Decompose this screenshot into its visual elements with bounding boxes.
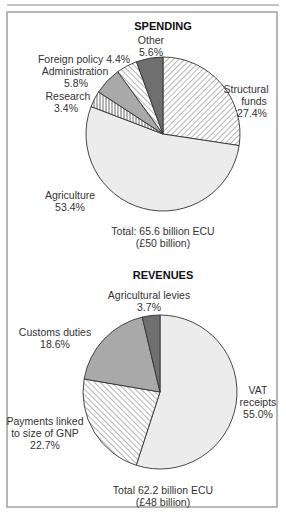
label-foreign-policy: Foreign policy 4.4% [38,53,130,65]
label-structural-funds-value: 27.4% [237,107,267,119]
label-research-1: Research [46,90,91,102]
spending-total-gbp: (£50 billion) [136,237,190,249]
revenues-title: REVENUES [133,269,194,281]
label-other-1: Other [138,34,165,46]
label-agriculture-value: 53.4% [55,201,85,213]
revenues-total-gbp: (£48 billion) [136,496,190,508]
label-structural-funds-2: funds [241,95,267,107]
label-vat-2: receipts [240,396,277,408]
label-gnp-value: 22.7% [30,439,60,451]
label-administration-value: 5.8% [64,77,88,89]
label-other-value: 5.6% [139,46,163,58]
label-agriculture-1: Agriculture [45,189,95,201]
label-agri-levies-value: 3.7% [137,301,161,313]
label-agri-levies-1: Agricultural levies [108,289,190,301]
label-customs-1: Customs duties [19,326,91,338]
label-administration-1: Administration [42,65,109,77]
label-gnp-1: Payments linked [6,415,83,427]
pie-slice-structural-funds [163,57,240,146]
label-vat-1: VAT [249,384,268,396]
label-structural-funds-1: Structural [224,83,269,95]
label-gnp-2: to size of GNP [11,427,79,439]
revenues-total: Total 62.2 billion ECU [113,484,213,496]
revenues-chart: REVENUES VAT receipts 55.0% Payments lin… [6,269,276,508]
label-customs-value: 18.6% [40,338,70,350]
label-research-value: 3.4% [54,102,78,114]
spending-title: SPENDING [134,20,191,32]
spending-chart: SPENDING Structural funds 27.4% Agricult… [38,20,269,249]
label-vat-value: 55.0% [243,408,273,420]
figure: SPENDING Structural funds 27.4% Agricult… [0,0,286,512]
spending-total: Total: 65.6 billion ECU [111,225,214,237]
